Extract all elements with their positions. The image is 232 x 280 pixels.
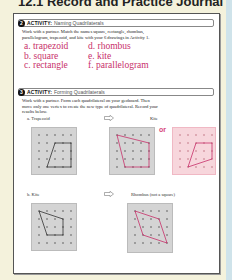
part-b-label: b. Kite	[27, 192, 40, 197]
arrow-right-icon	[104, 115, 114, 121]
activity-2-header: 2 ACTIVITY: Naming Quadrilaterals	[18, 19, 214, 27]
activity-label: ACTIVITY:	[27, 89, 52, 95]
activity-label: ACTIVITY:	[27, 20, 52, 26]
journal-page: 2 ACTIVITY: Naming Quadrilaterals Work w…	[13, 13, 220, 274]
instruction-line: parallelogram, trapezoid, and kite with …	[22, 35, 212, 41]
geoboard-kite-2	[172, 127, 216, 175]
activity-2-instructions: Work with a partner. Match the names squ…	[22, 29, 212, 40]
instruction-line: results below.	[22, 109, 212, 115]
activity-title: Forming Quadrilaterals	[54, 89, 105, 95]
geoboard-kite-1	[109, 127, 155, 175]
geoboard-rhombus	[127, 203, 173, 253]
activity-title: Naming Quadrilaterals	[54, 20, 104, 26]
part-a-target-label: Kite	[150, 116, 158, 121]
geoboard-kite-b	[31, 203, 77, 251]
activity-number: 2	[18, 20, 25, 27]
activity-number: 3	[18, 89, 25, 96]
geoboard-trapezoid	[31, 127, 77, 175]
answer-c: c. rectangle	[24, 61, 88, 71]
activity-3-header: 3 ACTIVITY: Forming Quadrilaterals	[18, 88, 214, 96]
part-a-label: a. Trapezoid	[27, 116, 50, 121]
page-title: 12.1 Record and Practice Journal	[18, 0, 218, 9]
arrow-right-icon	[104, 191, 114, 197]
answer-f: f. parallelogram	[88, 61, 168, 71]
activity-3-instructions: Work with a partner. Form each quadrilat…	[22, 98, 212, 115]
right-edge-strip	[226, 0, 232, 280]
or-label: or	[159, 126, 166, 133]
part-b-target-label: Rhombus (not a square)	[131, 192, 175, 197]
answer-list: a. trapezoid d. rhombus b. square e. kit…	[24, 42, 174, 71]
